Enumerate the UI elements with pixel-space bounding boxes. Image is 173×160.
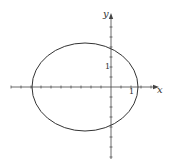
ellipse-plot — [0, 0, 173, 160]
y-tick-label-1: 1 — [105, 63, 110, 71]
y-axis-arrowhead — [109, 13, 113, 19]
x-tick-label-1: 1 — [129, 88, 134, 96]
y-axis — [109, 13, 113, 159]
y-axis-label: y — [103, 9, 109, 19]
x-axis — [11, 85, 159, 89]
x-axis-label: x — [157, 85, 163, 95]
